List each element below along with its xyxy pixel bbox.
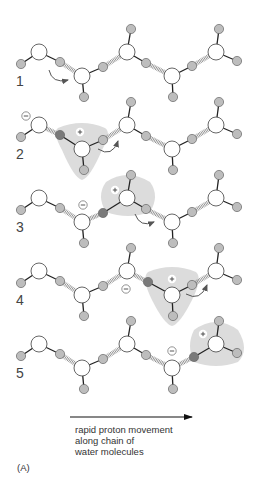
hydrogen-atom — [214, 316, 223, 325]
hydrogen-atom — [187, 61, 196, 70]
oxygen-atom — [164, 68, 180, 84]
hydrogen-atom — [214, 97, 223, 106]
hydrogen-atom — [79, 92, 88, 101]
step-number-4: 4 — [16, 292, 24, 308]
oxygen-atom — [74, 68, 90, 84]
hydrogen-atom — [79, 311, 88, 320]
oxygen-atom — [164, 214, 180, 230]
hydrogen-atom — [55, 276, 64, 285]
hydrogen-atom — [141, 204, 150, 213]
hydrogen-atom — [16, 59, 25, 68]
hydrogen-atom — [98, 354, 107, 363]
step-number-1: 1 — [16, 73, 24, 89]
hydrogen-atom — [55, 57, 64, 66]
row-5 — [16, 316, 244, 393]
hydrogen-atom — [187, 280, 196, 289]
hydrogen-atom — [98, 281, 107, 290]
proton-hop-arrow-icon — [49, 70, 68, 81]
hydrogen-atom — [168, 311, 177, 320]
hydrogen-atom — [126, 316, 135, 325]
step-number-2: 2 — [16, 146, 24, 162]
caption-line-2: along chain of — [75, 435, 173, 446]
hydrogen-atom — [168, 384, 177, 393]
hydrogen-atom — [98, 208, 107, 217]
hydrogen-atom — [141, 58, 150, 67]
hydrogen-atom — [141, 131, 150, 140]
oxygen-atom — [74, 360, 90, 376]
hydrogen-atom — [79, 238, 88, 247]
hydrogen-atom — [187, 134, 196, 143]
step-number-5: 5 — [16, 365, 24, 381]
oxygen-atom — [119, 263, 135, 279]
hydrogen-atom — [232, 348, 241, 357]
hydrogen-atom — [143, 277, 152, 286]
hydrogen-atom — [232, 129, 241, 138]
row-1 — [16, 24, 241, 101]
oxygen-atom — [208, 190, 224, 206]
hydrogen-atom — [79, 165, 88, 174]
row-3 — [16, 170, 241, 247]
proton-hop-arrow-icon — [135, 214, 154, 224]
hydrogen-atom — [55, 349, 64, 358]
hydrogen-atom — [141, 350, 150, 359]
hydrogen-atom — [126, 24, 135, 33]
oxygen-atom — [119, 44, 135, 60]
hydrogen-atom — [168, 238, 177, 247]
hydrogen-atom — [126, 97, 135, 106]
oxygen-atom — [164, 360, 180, 376]
hydrogen-atom — [214, 170, 223, 179]
oxygen-atom — [74, 287, 90, 303]
panel-label: (A) — [17, 462, 30, 473]
hydrogen-atom — [168, 92, 177, 101]
oxygen-atom — [31, 336, 47, 352]
oxygen-atom — [119, 117, 135, 133]
oxygen-atom — [208, 336, 224, 352]
hydrogen-atom — [98, 135, 107, 144]
hydrogen-atom — [55, 203, 64, 212]
hydrogen-atom — [16, 278, 25, 287]
caption-line-3: water molecules — [75, 446, 173, 457]
hydrogen-atom — [168, 165, 177, 174]
oxygen-atom — [119, 336, 135, 352]
hydrogen-atom — [16, 132, 25, 141]
hydrogen-atom — [232, 202, 241, 211]
hydrogen-atom — [189, 352, 198, 361]
row-4 — [16, 243, 241, 326]
hydrogen-atom — [187, 207, 196, 216]
hydrogen-atom — [214, 243, 223, 252]
oxygen-atom — [208, 44, 224, 60]
hydrogen-atom — [214, 24, 223, 33]
oxygen-atom — [74, 214, 90, 230]
oxygen-atom — [119, 190, 135, 206]
hydrogen-atom — [55, 130, 64, 139]
hydrogen-atom — [16, 351, 25, 360]
caption-line-1: rapid proton movement — [75, 424, 173, 435]
oxygen-atom — [164, 141, 180, 157]
hydrogen-atom — [232, 275, 241, 284]
water-chain-rows — [16, 24, 244, 393]
hydrogen-atom — [16, 205, 25, 214]
oxygen-atom — [31, 263, 47, 279]
step-number-3: 3 — [16, 219, 24, 235]
hydrogen-atom — [79, 384, 88, 393]
hydrogen-atom — [126, 170, 135, 179]
hydrogen-atom — [232, 56, 241, 65]
oxygen-atom — [31, 117, 47, 133]
hydrogen-atom — [98, 62, 107, 71]
row-2 — [16, 97, 241, 180]
oxygen-atom — [164, 287, 180, 303]
oxygen-atom — [31, 44, 47, 60]
hydrogen-atom — [126, 243, 135, 252]
oxygen-atom — [208, 117, 224, 133]
oxygen-atom — [31, 190, 47, 206]
oxygen-atom — [74, 141, 90, 157]
arrow-caption: rapid proton movement along chain of wat… — [75, 424, 173, 457]
proton-transfer-diagram — [0, 0, 261, 483]
oxygen-atom — [208, 263, 224, 279]
